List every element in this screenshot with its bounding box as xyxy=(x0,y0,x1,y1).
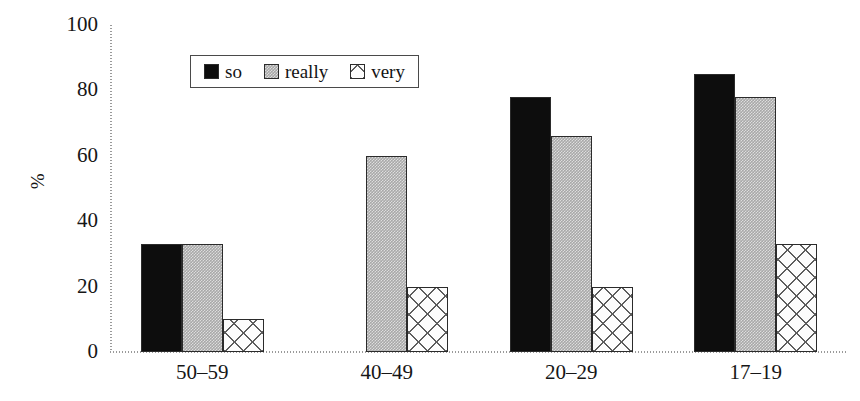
chart-legend: soreallyvery xyxy=(190,55,419,88)
bar-so xyxy=(510,97,551,352)
bar-really xyxy=(735,97,776,352)
x-tick-label: 17–19 xyxy=(664,360,849,385)
bar-chart: % 100806040200 50–5940–4920–2917–19 sore… xyxy=(0,0,860,401)
bar-really xyxy=(366,156,407,352)
x-tick-label: 40–49 xyxy=(295,360,480,385)
bar-so xyxy=(141,244,182,352)
bar-really xyxy=(551,136,592,352)
y-tick-label: 0 xyxy=(52,341,98,362)
gray-stipple-swatch xyxy=(264,64,279,79)
legend-item-so: so xyxy=(204,62,242,81)
y-tick-label: 60 xyxy=(52,145,98,166)
bar-set xyxy=(479,25,664,352)
x-tick-label: 50–59 xyxy=(110,360,295,385)
legend-item-very: very xyxy=(350,62,405,81)
bar-group xyxy=(479,25,664,352)
legend-label: really xyxy=(285,62,328,81)
y-tick-label: 40 xyxy=(52,210,98,231)
y-tick-label: 100 xyxy=(52,14,98,35)
bar-group xyxy=(664,25,849,352)
bar-so xyxy=(694,74,735,352)
bar-very xyxy=(407,287,448,352)
y-tick-label: 80 xyxy=(52,79,98,100)
x-tick-label: 20–29 xyxy=(479,360,664,385)
y-axis-title: % xyxy=(27,161,49,201)
solid-black-swatch xyxy=(204,64,219,79)
legend-label: very xyxy=(371,62,405,81)
bar-very xyxy=(592,287,633,352)
cross-hatch-swatch xyxy=(350,64,365,79)
x-axis-tick-labels: 50–5940–4920–2917–19 xyxy=(110,360,848,385)
bar-set xyxy=(664,25,849,352)
bar-very xyxy=(776,244,817,352)
legend-item-really: really xyxy=(264,62,328,81)
y-tick-label: 20 xyxy=(52,276,98,297)
bar-really xyxy=(182,244,223,352)
bar-very xyxy=(223,319,264,352)
legend-label: so xyxy=(225,62,242,81)
